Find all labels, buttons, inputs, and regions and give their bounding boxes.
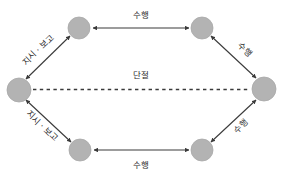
node-bottom-right[interactable] [191,139,213,161]
edge-label-upper-right: 수행 [236,41,254,59]
diagram-canvas: 수행 수행 단절 지시 · 보고 지시 · 보고 수행 수행 [0,0,284,180]
edge-label-top: 수행 [133,10,149,20]
node-top-left[interactable] [68,17,90,39]
edge-label-bottom: 수행 [133,160,149,170]
diagram-svg: 수행 수행 단절 지시 · 보고 지시 · 보고 수행 수행 [0,0,284,180]
node-top-right[interactable] [191,17,213,39]
edge-lower-right-diagonal [211,100,256,142]
node-right[interactable] [252,77,276,101]
node-bottom-left[interactable] [69,139,91,161]
node-left[interactable] [7,78,31,102]
edge-label-upper-left: 지시 · 보고 [20,32,56,67]
edge-label-lower-left: 지시 · 보고 [24,108,60,143]
edge-label-center: 단절 [133,70,149,80]
